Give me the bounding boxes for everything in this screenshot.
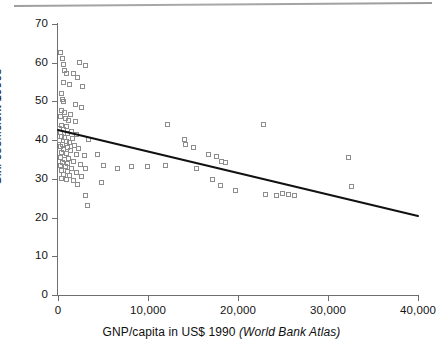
data-point [145, 164, 150, 169]
x-axis-tick-label: 40,000 [400, 304, 436, 316]
y-axis-tick-label: 20 [22, 212, 48, 223]
data-point [64, 177, 69, 182]
data-point [214, 154, 219, 159]
data-point [263, 192, 268, 197]
data-point [346, 155, 351, 160]
data-point [71, 159, 76, 164]
data-point [191, 145, 196, 150]
scatter-chart-figure: 010203040506070 010,00020,00030,00040,00… [0, 0, 443, 349]
y-axis-tick-label: 30 [22, 173, 48, 184]
data-point [67, 82, 72, 87]
data-point [61, 99, 66, 104]
data-point [61, 62, 66, 67]
data-point [68, 112, 73, 117]
y-axis-tick [52, 256, 57, 257]
x-axis-tick [238, 296, 239, 301]
data-point [58, 50, 63, 55]
data-point [80, 84, 85, 89]
data-point [83, 166, 88, 171]
y-axis-tick-label: 70 [22, 18, 48, 29]
data-point [261, 122, 266, 127]
data-point [223, 160, 228, 165]
x-axis-tick [148, 296, 149, 301]
data-point [99, 180, 104, 185]
y-axis-tick-label: 40 [22, 134, 48, 145]
plot-area [58, 24, 418, 295]
x-axis-tick-label: 0 [55, 304, 62, 316]
data-point [286, 192, 291, 197]
data-point [280, 191, 285, 196]
x-axis-tick-label: 30,000 [310, 304, 346, 316]
data-point [74, 152, 79, 157]
y-axis-label: Gini coefficient 1990s [0, 27, 4, 227]
data-point [64, 71, 69, 76]
y-axis-tick-label: 60 [22, 57, 48, 68]
y-axis-tick [52, 101, 57, 102]
y-axis-tick-label: 0 [22, 289, 48, 300]
data-point [182, 137, 187, 142]
data-point [129, 164, 134, 169]
data-point [73, 119, 78, 124]
data-point [233, 188, 238, 193]
data-point [79, 105, 84, 110]
data-point [68, 148, 73, 153]
x-axis-tick-label: 10,000 [130, 304, 166, 316]
data-point [85, 203, 90, 208]
data-point [101, 163, 106, 168]
y-axis-tick [52, 24, 57, 25]
data-point [75, 182, 80, 187]
data-point [274, 193, 279, 198]
data-point [292, 193, 297, 198]
data-point [165, 122, 170, 127]
data-point [206, 152, 211, 157]
data-point [60, 56, 65, 61]
x-axis-tick [58, 296, 59, 301]
data-point [83, 193, 88, 198]
data-point [73, 102, 78, 107]
y-axis-tick [52, 218, 57, 219]
data-point [183, 142, 188, 147]
data-point [163, 163, 168, 168]
y-axis-tick-label: 50 [22, 95, 48, 106]
x-axis-tick [328, 296, 329, 301]
data-point [76, 146, 81, 151]
data-point [77, 60, 82, 65]
y-axis-tick [52, 295, 57, 296]
data-point [83, 63, 88, 68]
data-point [218, 183, 223, 188]
data-point [86, 137, 91, 142]
x-axis-tick-label: 20,000 [220, 304, 256, 316]
page-top-rule [14, 2, 432, 7]
data-point [61, 80, 66, 85]
x-axis-tick [418, 296, 419, 301]
x-axis-label-source: (World Bank Atlas) [239, 325, 340, 339]
data-point [75, 75, 80, 80]
data-point [79, 174, 84, 179]
data-point [59, 91, 64, 96]
data-point [349, 184, 354, 189]
data-point [194, 166, 199, 171]
data-point [115, 166, 120, 171]
y-axis-tick [52, 179, 57, 180]
x-axis-label: GNP/capita in US$ 1990 (World Bank Atlas… [0, 325, 443, 339]
data-point [82, 153, 87, 158]
x-axis-label-plain: GNP/capita in US$ 1990 [103, 325, 239, 339]
y-axis-tick [52, 140, 57, 141]
data-point [66, 118, 71, 123]
y-axis-tick-label: 10 [22, 250, 48, 261]
y-axis-tick [52, 63, 57, 64]
data-point [210, 177, 215, 182]
data-point [95, 152, 100, 157]
